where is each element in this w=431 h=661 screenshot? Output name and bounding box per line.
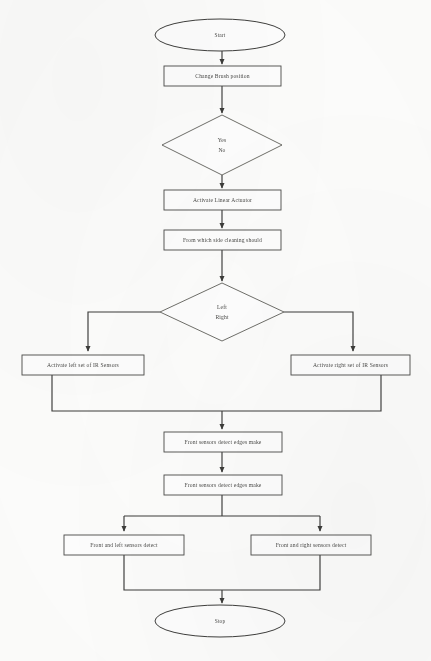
edge-front-left-detect-merge [124,555,222,590]
node-activate-left-ir[interactable]: Activate left set of IR Sensors [22,355,144,375]
decision-no-label: No [218,147,225,153]
flowchart-canvas: Start Change Brush position Yes No Activ… [0,0,431,661]
node-start[interactable]: Start [155,19,285,51]
node-front-left-detect[interactable]: Front and left sensors detect [64,535,184,555]
node-activate-right-ir[interactable]: Activate right set of IR Sensors [291,355,410,375]
change-brush-label: Change Brush position [195,73,249,79]
activate-right-ir-label: Activate right set of IR Sensors [313,362,388,368]
node-front-sensors-1[interactable]: Front sensors detect edges make [164,432,282,452]
decision-yes-label: Yes [218,137,227,143]
edge-right-ir-merge [222,375,381,411]
stop-label: Stop [215,618,226,624]
decision-left-label: Left [217,304,227,310]
node-front-sensors-2[interactable]: Front sensors detect edges make [164,475,282,495]
decision-right-label: Right [215,314,228,320]
front-sensors-1-label: Front sensors detect edges make [184,439,261,445]
node-front-right-detect[interactable]: Front and right sensors detect [251,535,371,555]
node-which-side[interactable]: From which side cleaning should [164,230,281,250]
front-left-detect-label: Front and left sensors detect [90,542,158,548]
decision-yes-no-diamond [162,115,282,175]
edge-front-sensors-2-split [124,495,320,516]
decision-left-right-diamond [160,283,284,341]
edge-left-ir-merge [52,375,222,411]
front-right-detect-label: Front and right sensors detect [276,542,347,548]
node-change-brush[interactable]: Change Brush position [164,66,281,86]
node-decision-yes-no[interactable]: Yes No [162,115,282,175]
flowchart-page: Start Change Brush position Yes No Activ… [0,0,431,661]
node-stop[interactable]: Stop [155,605,285,637]
front-sensors-2-label: Front sensors detect edges make [184,482,261,488]
which-side-label: From which side cleaning should [183,237,262,243]
edge-front-right-detect-merge [222,555,320,590]
edge-decision-to-right-ir [284,312,353,351]
activate-left-ir-label: Activate left set of IR Sensors [47,362,119,368]
start-label: Start [215,32,226,38]
edge-decision-to-left-ir [88,312,160,351]
node-activate-linear-actuator[interactable]: Activate Linear Actuator [164,190,281,210]
node-decision-left-right[interactable]: Left Right [160,283,284,341]
activate-linear-actuator-label: Activate Linear Actuator [193,197,252,203]
